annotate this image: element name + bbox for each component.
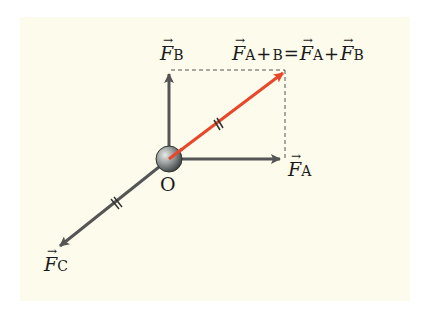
label-origin: O (160, 175, 176, 194)
label-fa: FA (288, 160, 311, 179)
label-fc: FC (44, 255, 68, 274)
label-fb: FB (160, 44, 183, 63)
vector-resultant (169, 73, 283, 159)
label-resultant-equation: FA+B=FA+FB (232, 44, 364, 63)
